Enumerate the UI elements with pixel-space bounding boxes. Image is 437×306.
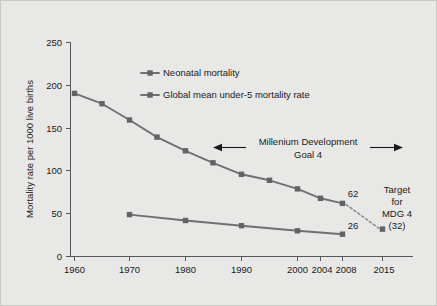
series-marker <box>340 232 345 237</box>
series-marker <box>127 117 132 122</box>
series-marker <box>340 201 345 206</box>
series-neonatal-line <box>130 215 343 235</box>
x-tick-label-2004: 2004 <box>311 264 332 275</box>
target-callout-line3: MDG 4 <box>382 208 412 219</box>
y-tick-label-250: 250 <box>46 37 62 48</box>
series-marker <box>99 101 104 106</box>
target-callout-annotation: Target for MDG 4 (32) <box>382 184 412 231</box>
legend-swatch-marker <box>147 92 152 97</box>
target-callout-line2: for <box>391 196 402 207</box>
x-tick-label-2015: 2015 <box>373 264 394 275</box>
chart-figure: 250 200 150 100 50 0 Mortality rate per … <box>0 0 437 306</box>
series-marker <box>239 172 244 177</box>
x-tick-label-1970: 1970 <box>119 264 140 275</box>
x-tick-label-2000: 2000 <box>287 264 308 275</box>
x-tick-label-2008: 2008 <box>335 264 356 275</box>
chart-svg: 250 200 150 100 50 0 Mortality rate per … <box>1 1 437 306</box>
series-neonatal <box>127 212 345 237</box>
series-marker <box>183 218 188 223</box>
chart-legend: Neonatal mortality Global mean under-5 m… <box>141 67 310 100</box>
x-tick-label-1980: 1980 <box>175 264 196 275</box>
series-marker <box>210 160 215 165</box>
mdg4-annotation-line2: Goal 4 <box>294 149 322 160</box>
y-tick-label-200: 200 <box>46 80 62 91</box>
y-axis-title: Mortality rate per 1000 live births <box>24 80 35 218</box>
y-axis-ticks: 250 200 150 100 50 0 <box>46 37 70 262</box>
series-marker <box>127 212 132 217</box>
series-marker <box>239 223 244 228</box>
series-marker <box>318 196 323 201</box>
legend-item-global-under5[interactable]: Global mean under-5 mortality rate <box>141 89 310 100</box>
y-tick-label-100: 100 <box>46 165 62 176</box>
series-marker <box>154 134 159 139</box>
legend-swatch-marker <box>147 70 152 75</box>
target-marker <box>380 226 385 231</box>
series-marker <box>295 228 300 233</box>
mdg4-right-arrow-head <box>394 144 403 151</box>
series-marker <box>72 91 77 96</box>
series-marker <box>183 148 188 153</box>
target-callout-line1: Target <box>384 184 411 195</box>
mdg4-left-arrow-head <box>213 144 222 151</box>
data-label-62: 62 <box>348 188 359 199</box>
x-tick-label-1960: 1960 <box>64 264 85 275</box>
target-callout-line4: (32) <box>389 220 406 231</box>
series-marker <box>267 178 272 183</box>
legend-label-neonatal: Neonatal mortality <box>163 67 240 78</box>
data-label-26: 26 <box>348 220 359 231</box>
series-marker <box>295 186 300 191</box>
x-tick-label-1990: 1990 <box>231 264 252 275</box>
legend-label-global-under5: Global mean under-5 mortality rate <box>163 89 310 100</box>
mdg4-annotation: Millenium Development Goal 4 <box>213 136 403 160</box>
y-tick-label-50: 50 <box>51 208 62 219</box>
x-axis-ticks: 1960 1970 1980 1990 2000 2004 2008 2015 <box>64 257 395 276</box>
mdg4-annotation-line1: Millenium Development <box>259 136 358 147</box>
y-tick-label-150: 150 <box>46 123 62 134</box>
legend-item-neonatal[interactable]: Neonatal mortality <box>141 67 240 78</box>
y-tick-label-0: 0 <box>57 251 62 262</box>
